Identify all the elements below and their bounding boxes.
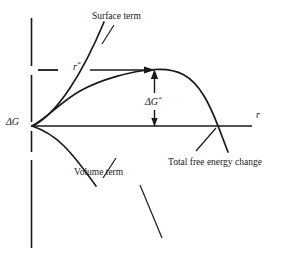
total-free-energy-change-label: Total free energy change	[168, 158, 262, 168]
surface-term-label: Surface term	[92, 12, 141, 22]
volume-term-leader-line-lower	[140, 185, 162, 238]
figure-caption	[0, 252, 292, 262]
critical-radius-label: r*	[73, 62, 80, 72]
total-curve-leader-line	[196, 128, 216, 151]
activation-barrier-label: ΔG*	[145, 97, 162, 107]
delta-g-axis-label: ΔG	[6, 117, 19, 127]
activation-barrier-label-base: ΔG	[145, 96, 158, 107]
surface-term-curve	[32, 22, 104, 126]
volume-term-label: Volume term	[74, 168, 123, 178]
total-free-energy-curve	[32, 69, 228, 152]
critical-radius-label-superscript: *	[77, 60, 81, 68]
nucleation-free-energy-plot	[0, 0, 292, 262]
figure-container: Surface term Volume term Total free ener…	[0, 0, 292, 262]
radius-axis-label: r	[256, 110, 260, 120]
surface-term-leader-line	[102, 25, 114, 44]
activation-barrier-label-superscript: *	[158, 95, 162, 103]
